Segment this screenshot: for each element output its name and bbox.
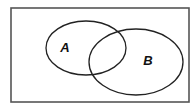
set-b-ellipse <box>89 29 183 95</box>
venn-diagram: A B <box>0 0 193 106</box>
set-b-label: B <box>143 53 152 68</box>
set-a-label: A <box>59 40 69 55</box>
set-a-ellipse <box>46 21 126 75</box>
